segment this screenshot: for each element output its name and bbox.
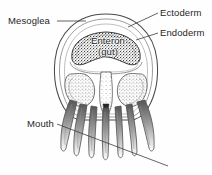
- label-enteron-line1: Enteron: [91, 35, 125, 46]
- tentacle: [102, 108, 109, 160]
- tentacle: [137, 100, 154, 151]
- medusa-cross-section-diagram: Mesoglea Ectoderm Endoderm Mouth Enteron…: [0, 0, 212, 175]
- label-ectoderm: Ectoderm: [160, 8, 201, 19]
- label-enteron: Enteron (gut): [79, 36, 137, 57]
- label-endoderm: Endoderm: [160, 28, 205, 39]
- label-mesoglea: Mesoglea: [8, 16, 50, 27]
- label-mouth: Mouth: [27, 119, 54, 130]
- label-enteron-line2: (gut): [79, 47, 137, 58]
- tentacle-group: [61, 100, 154, 160]
